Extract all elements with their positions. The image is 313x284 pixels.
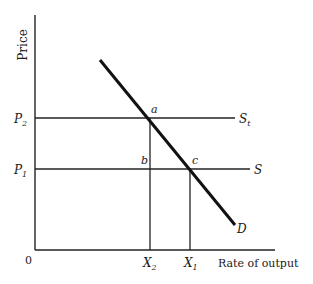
x1-label: X1 xyxy=(183,256,198,272)
point-c-label: c xyxy=(192,154,198,167)
supply-taxed-label: St xyxy=(239,112,251,128)
supply-label: S xyxy=(254,163,262,177)
y-axis-label: Price xyxy=(16,29,30,60)
origin-label: 0 xyxy=(25,254,32,267)
p1-label: P1 xyxy=(13,163,27,179)
point-b-label: b xyxy=(141,154,148,167)
demand-line xyxy=(100,60,235,225)
x-axis-label: Rate of output xyxy=(218,257,299,270)
point-a-label: a xyxy=(151,103,158,116)
p2-label: P2 xyxy=(13,112,27,128)
supply-demand-diagram: Price P2 P1 0 X2 X1 Rate of output St S … xyxy=(0,0,313,284)
x2-label: X2 xyxy=(142,256,157,272)
demand-label: D xyxy=(236,222,247,236)
